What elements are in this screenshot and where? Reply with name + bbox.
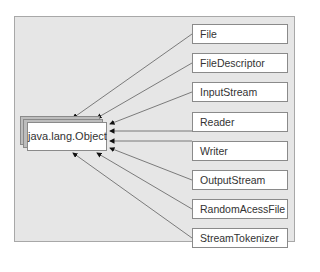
class-box-inputstream: InputStream <box>192 82 288 102</box>
class-box-randomaccessfile: RandomAcessFile <box>192 199 288 219</box>
class-box-writer: Writer <box>192 141 288 161</box>
class-box-file: File <box>192 24 288 44</box>
class-box-reader: Reader <box>192 112 288 132</box>
class-box-outputstream: OutputStream <box>192 170 288 190</box>
class-box-filedescriptor: FileDescriptor <box>192 53 288 73</box>
root-class-box: java.lang.Object <box>27 122 107 151</box>
class-box-streamtokenizer: StreamTokenizer <box>192 228 288 248</box>
